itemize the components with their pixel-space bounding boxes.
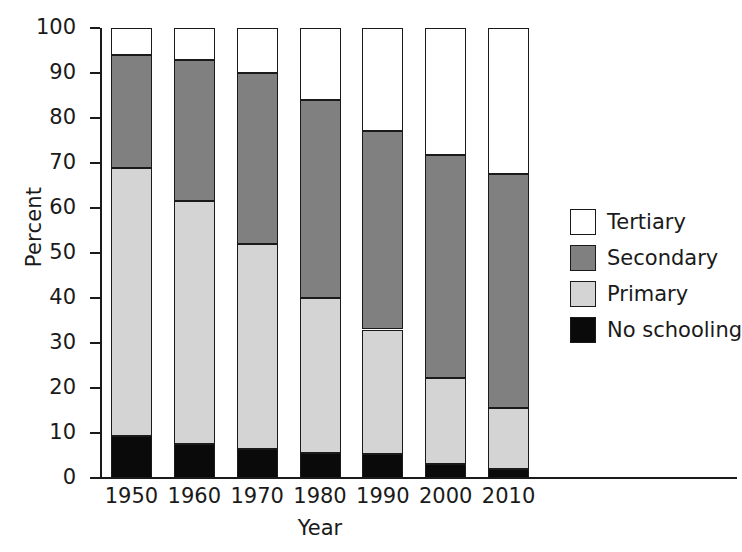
bar-segment-primary: [362, 330, 403, 455]
y-tick-mark: [90, 162, 100, 164]
x-tick-label-1980: 1980: [285, 484, 355, 508]
bar-segment-secondary: [111, 55, 152, 168]
bar-segment-primary: [111, 168, 152, 437]
bar-segment-secondary: [174, 60, 215, 201]
bar-segment-no-schooling: [300, 453, 341, 478]
y-tick-mark: [90, 342, 100, 344]
x-tick-label-1960: 1960: [159, 484, 229, 508]
y-tick-mark: [90, 477, 100, 479]
y-tick-mark: [90, 432, 100, 434]
y-tick-label: 60: [30, 197, 76, 218]
bar-segment-no-schooling: [174, 444, 215, 478]
bar-segment-no-schooling: [111, 436, 152, 478]
legend-item-no-schooling: No schooling: [570, 312, 742, 348]
primary-swatch: [570, 281, 596, 307]
chart-legend: TertiarySecondaryPrimaryNo schooling: [570, 204, 742, 348]
bar-segment-primary: [237, 244, 278, 449]
bar-segment-tertiary: [237, 28, 278, 73]
bar-segment-tertiary: [488, 28, 529, 174]
bar-segment-secondary: [362, 131, 403, 329]
plot-area: [100, 28, 540, 478]
y-tick-label: 70: [30, 152, 76, 173]
bar-2000: [425, 28, 466, 478]
y-tick-label: 30: [30, 332, 76, 353]
bar-segment-primary: [488, 408, 529, 470]
y-tick-label: 50: [30, 242, 76, 263]
y-tick-label: 0: [30, 467, 76, 488]
x-tick-label-2000: 2000: [411, 484, 481, 508]
bar-2010: [488, 28, 529, 478]
tertiary-swatch: [570, 209, 596, 235]
bar-segment-secondary: [300, 100, 341, 298]
legend-item-tertiary: Tertiary: [570, 204, 742, 240]
bar-1980: [300, 28, 341, 478]
legend-label: Secondary: [607, 246, 718, 270]
y-tick-label: 20: [30, 377, 76, 398]
x-tick-label-1990: 1990: [348, 484, 418, 508]
bar-segment-secondary: [488, 174, 529, 408]
x-tick-label-1950: 1950: [96, 484, 166, 508]
y-tick-mark: [90, 252, 100, 254]
legend-label: Primary: [607, 282, 688, 306]
x-tick-label-2010: 2010: [474, 484, 544, 508]
bar-1950: [111, 28, 152, 478]
bar-segment-tertiary: [300, 28, 341, 100]
x-axis-label: Year: [100, 516, 540, 540]
bar-segment-primary: [174, 201, 215, 444]
y-tick-label: 80: [30, 107, 76, 128]
y-tick-label: 100: [30, 17, 76, 38]
y-tick-mark: [90, 297, 100, 299]
bar-segment-tertiary: [425, 28, 466, 155]
no-schooling-swatch: [570, 317, 596, 343]
bar-segment-no-schooling: [362, 454, 403, 478]
bar-1970: [237, 28, 278, 478]
bar-1990: [362, 28, 403, 478]
bar-segment-primary: [425, 378, 466, 464]
bar-segment-secondary: [425, 155, 466, 377]
legend-label: No schooling: [607, 318, 742, 342]
y-tick-mark: [90, 387, 100, 389]
bar-segment-no-schooling: [237, 449, 278, 478]
bar-segment-tertiary: [111, 28, 152, 55]
bar-segment-no-schooling: [425, 464, 466, 478]
y-tick-mark: [90, 72, 100, 74]
y-tick-label: 10: [30, 422, 76, 443]
y-tick-label: 90: [30, 62, 76, 83]
bar-segment-tertiary: [362, 28, 403, 131]
legend-item-primary: Primary: [570, 276, 742, 312]
x-tick-label-1970: 1970: [222, 484, 292, 508]
y-tick-label: 40: [30, 287, 76, 308]
bar-1960: [174, 28, 215, 478]
y-axis-label: Percent: [22, 157, 46, 297]
y-tick-mark: [90, 27, 100, 29]
secondary-swatch: [570, 245, 596, 271]
legend-label: Tertiary: [607, 210, 686, 234]
bar-segment-tertiary: [174, 28, 215, 60]
bar-segment-primary: [300, 298, 341, 453]
bar-segment-secondary: [237, 73, 278, 244]
legend-item-secondary: Secondary: [570, 240, 742, 276]
y-tick-mark: [90, 117, 100, 119]
y-tick-mark: [90, 207, 100, 209]
bar-segment-no-schooling: [488, 469, 529, 478]
